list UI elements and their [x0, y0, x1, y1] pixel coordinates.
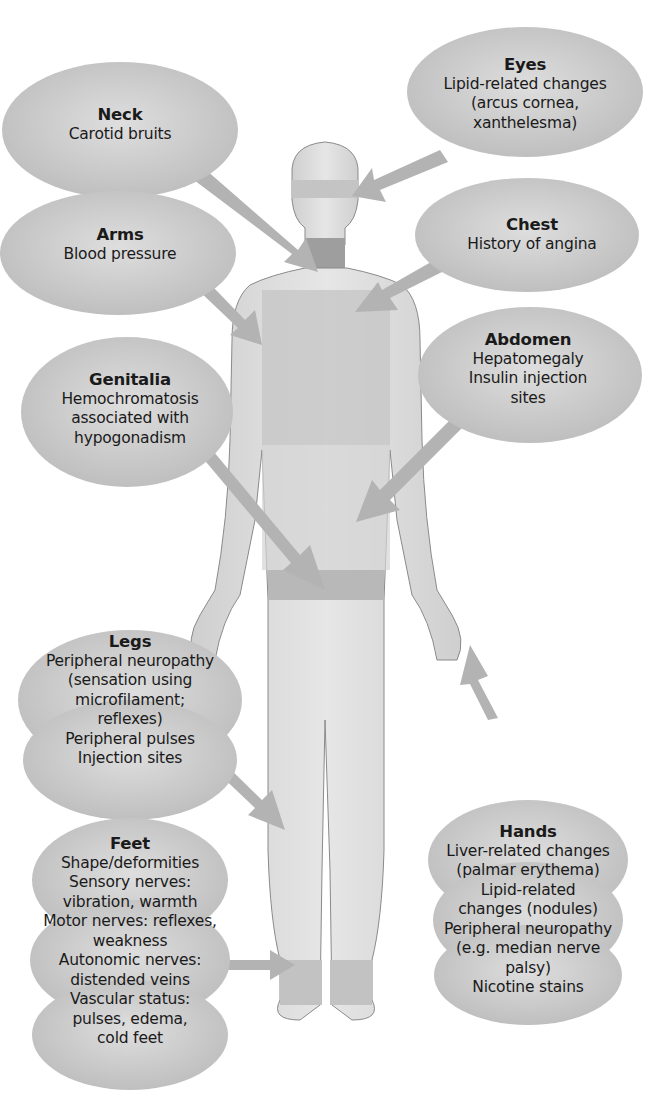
callout-line: pulses, edema, — [30, 1010, 230, 1030]
callout-line: reflexes) — [30, 710, 230, 730]
callout-line: distended veins — [30, 971, 230, 991]
eyes-arrow — [352, 150, 448, 202]
callout-line: vibration, warmth — [30, 893, 230, 913]
callout-line: Peripheral pulses — [30, 730, 230, 750]
callout-line: (arcus cornea, — [425, 94, 625, 114]
callout-hands: Hands Liver-related changes (palmar eryt… — [428, 822, 628, 998]
callout-feet: Feet Shape/deformities Sensory nerves: v… — [30, 834, 230, 1049]
callout-line: changes (nodules) — [428, 900, 628, 920]
callout-line: Hemochromatosis — [30, 390, 230, 410]
callout-line: Liver-related changes — [428, 842, 628, 862]
callout-line: (palmar erythema) — [428, 861, 628, 881]
callout-line: Insulin injection — [428, 369, 628, 389]
callout-line: Autonomic nerves: — [30, 951, 230, 971]
callout-title: Neck — [20, 105, 220, 125]
callout-eyes: Eyes Lipid-related changes (arcus cornea… — [425, 55, 625, 133]
callout-title: Chest — [432, 215, 632, 235]
callout-line: Peripheral neuropathy — [30, 652, 230, 672]
right-foot-band — [330, 960, 372, 1005]
callout-line: Shape/deformities — [30, 854, 230, 874]
callout-line: Lipid-related — [428, 881, 628, 901]
callout-line: associated with — [30, 409, 230, 429]
callout-genitalia: Genitalia Hemochromatosis associated wit… — [30, 370, 230, 448]
callout-abdomen: Abdomen Hepatomegaly Insulin injection s… — [428, 330, 628, 408]
callout-line: Motor nerves: reflexes, — [30, 912, 230, 932]
callout-title: Eyes — [425, 55, 625, 75]
callout-line: Injection sites — [30, 749, 230, 769]
callout-chest: Chest History of angina — [432, 215, 632, 254]
callout-line: Blood pressure — [20, 245, 220, 265]
callout-line: weakness — [30, 932, 230, 952]
callout-legs: Legs Peripheral neuropathy (sensation us… — [30, 632, 230, 769]
callout-line: History of angina — [432, 235, 632, 255]
callout-line: Vascular status: — [30, 990, 230, 1010]
chest-band — [262, 290, 390, 445]
callout-line: hypogonadism — [30, 429, 230, 449]
callout-line: (e.g. median nerve — [428, 939, 628, 959]
eye-band — [292, 180, 358, 198]
callout-line: Nicotine stains — [428, 978, 628, 998]
callout-line: sites — [428, 389, 628, 409]
callout-line: palsy) — [428, 959, 628, 979]
callout-line: xanthelesma) — [425, 114, 625, 134]
callout-title: Feet — [30, 834, 230, 854]
callout-line: Hepatomegaly — [428, 350, 628, 370]
callout-title: Arms — [20, 225, 220, 245]
callout-line: microfilament; — [30, 691, 230, 711]
callout-title: Hands — [428, 822, 628, 842]
callout-title: Legs — [30, 632, 230, 652]
groin-band — [268, 570, 384, 600]
callout-line: Sensory nerves: — [30, 873, 230, 893]
callout-line: Peripheral neuropathy — [428, 920, 628, 940]
hands-arrow — [460, 645, 498, 720]
callout-arms: Arms Blood pressure — [20, 225, 220, 264]
callout-neck: Neck Carotid bruits — [20, 105, 220, 144]
callout-line: cold feet — [30, 1029, 230, 1049]
callout-line: Carotid bruits — [20, 125, 220, 145]
callout-title: Genitalia — [30, 370, 230, 390]
callout-line: Lipid-related changes — [425, 75, 625, 95]
callout-title: Abdomen — [428, 330, 628, 350]
callout-line: (sensation using — [30, 671, 230, 691]
